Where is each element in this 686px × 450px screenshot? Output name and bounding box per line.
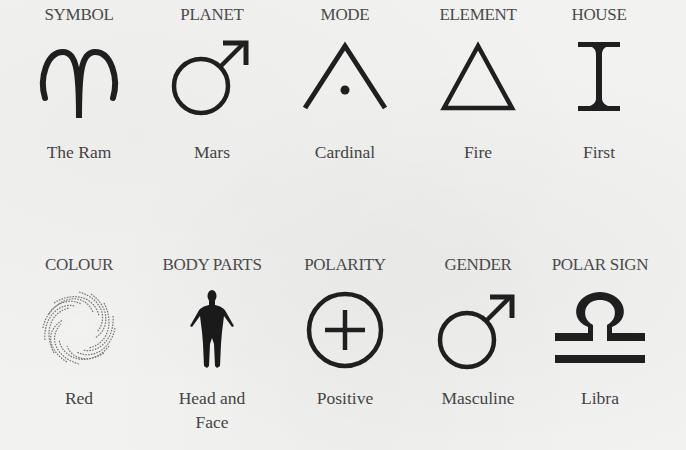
- bleed-through-text: — — — — — — — — — — — — — — — —: [300, 178, 596, 195]
- header-element: ELEMENT: [411, 5, 545, 25]
- label-face: Face: [145, 410, 279, 434]
- aries-ram-icon: [37, 38, 121, 122]
- header-planet: PLANET: [145, 5, 279, 25]
- label-positive: Positive: [278, 386, 412, 410]
- label-head-and: Head and: [145, 386, 279, 410]
- header-body-parts: BODY PARTS: [145, 255, 279, 275]
- circled-plus-icon: [303, 288, 387, 372]
- aries-attributes-chart: — — — — — — — — — — — — — — — — — — — — …: [0, 0, 686, 450]
- human-figure-icon: [182, 288, 242, 372]
- label-red: Red: [12, 386, 146, 410]
- header-polarity: POLARITY: [278, 255, 412, 275]
- header-mode: MODE: [278, 5, 412, 25]
- color-swirl-icon: [39, 288, 119, 368]
- label-masculine: Masculine: [411, 386, 545, 410]
- bleed-through-text: — — — — — — — — — — — — — — —: [300, 196, 578, 213]
- fire-triangle-icon: [438, 38, 518, 122]
- label-mars: Mars: [145, 140, 279, 164]
- male-symbol-icon: [436, 288, 520, 372]
- label-the-ram: The Ram: [12, 140, 146, 164]
- mars-icon: [170, 38, 254, 122]
- header-gender: GENDER: [411, 255, 545, 275]
- label-libra: Libra: [533, 386, 667, 410]
- label-cardinal: Cardinal: [278, 140, 412, 164]
- header-house: HOUSE: [532, 5, 666, 25]
- cardinal-mode-icon: [300, 38, 390, 122]
- label-first: First: [532, 140, 666, 164]
- roman-numeral-one-icon: [574, 38, 624, 122]
- libra-icon: [550, 288, 650, 372]
- header-symbol: SYMBOL: [12, 5, 146, 25]
- header-polar-sign: POLAR SIGN: [533, 255, 667, 275]
- label-fire: Fire: [411, 140, 545, 164]
- header-colour: COLOUR: [12, 255, 146, 275]
